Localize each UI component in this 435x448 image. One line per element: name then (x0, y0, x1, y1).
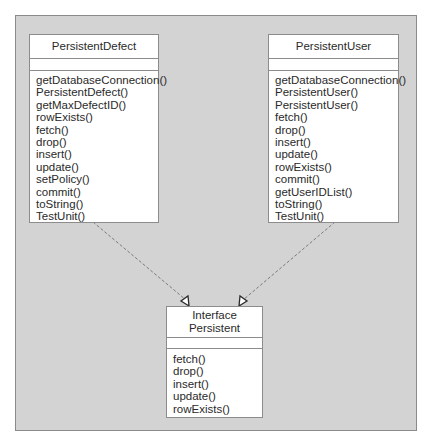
method: commit() (275, 173, 398, 185)
method: fetch() (36, 124, 158, 136)
class-methods: fetch() drop() insert() update() rowExis… (167, 349, 262, 415)
class-attributes (269, 59, 398, 71)
method: update() (275, 148, 398, 160)
class-attributes (30, 59, 158, 71)
class-attributes (167, 338, 262, 349)
interface-stereotype: Interface (167, 309, 262, 322)
method: toString() (275, 198, 398, 210)
hollow-triangle-arrow-icon (181, 296, 189, 306)
method: update() (173, 390, 262, 402)
method: getMaxDefectID() (36, 99, 158, 111)
method: drop() (173, 365, 262, 377)
method: setPolicy() (36, 173, 158, 185)
method: insert() (275, 136, 398, 148)
method: getDatabaseConnection() (36, 74, 158, 86)
method: insert() (173, 378, 262, 390)
method: toString() (36, 198, 158, 210)
method: rowExists() (173, 403, 262, 415)
method: drop() (275, 124, 398, 136)
class-name: Interface Persistent (167, 307, 262, 338)
class-persistent-user[interactable]: PersistentUser getDatabaseConnection() P… (268, 34, 399, 223)
class-persistent-defect[interactable]: PersistentDefect getDatabaseConnection()… (29, 34, 159, 223)
method: PersistentUser() (275, 99, 398, 111)
interface-persistent[interactable]: Interface Persistent fetch() drop() inse… (166, 306, 263, 418)
method: fetch() (275, 111, 398, 123)
method: rowExists() (36, 111, 158, 123)
method: PersistentDefect() (36, 86, 158, 98)
method: insert() (36, 148, 158, 160)
method: TestUnit() (36, 210, 158, 222)
method: TestUnit() (275, 210, 398, 222)
method: fetch() (173, 353, 262, 365)
interface-name: Persistent (167, 322, 262, 335)
method: commit() (36, 186, 158, 198)
method: update() (36, 161, 158, 173)
method: getDatabaseConnection() (275, 74, 398, 86)
class-methods: getDatabaseConnection() PersistentUser()… (269, 71, 398, 223)
class-name: PersistentUser (269, 35, 398, 59)
method: getUserIDList() (275, 186, 398, 198)
class-methods: getDatabaseConnection() PersistentDefect… (30, 71, 158, 223)
class-name: PersistentDefect (30, 35, 158, 59)
method: PersistentUser() (275, 86, 398, 98)
realization-user-to-persistent (239, 222, 335, 306)
realization-defect-to-persistent (93, 222, 189, 306)
method: drop() (36, 136, 158, 148)
method: rowExists() (275, 161, 398, 173)
